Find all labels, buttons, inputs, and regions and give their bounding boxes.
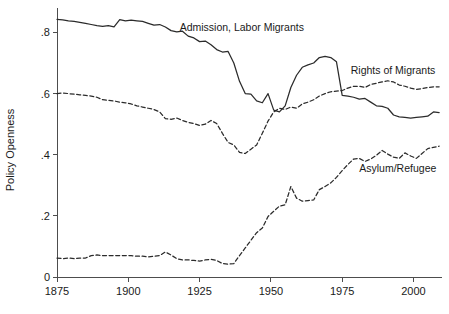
x-tick-label: 1875: [45, 285, 69, 297]
y-axis-title: Policy Openness: [4, 108, 16, 191]
chart-svg: 0.2.4.6.8 Policy Openness 18751900192519…: [0, 0, 449, 314]
x-tick-label: 1925: [187, 285, 211, 297]
x-tick-label: 1900: [116, 285, 140, 297]
series-label-asylum-refugee: Asylum/Refugee: [359, 162, 436, 174]
y-tick-label: .6: [41, 88, 50, 100]
policy-openness-chart: 0.2.4.6.8 Policy Openness 18751900192519…: [0, 0, 449, 314]
y-axis: 0.2.4.6.8 Policy Openness: [4, 8, 57, 283]
x-tick-group: 187519001925195019752000: [45, 277, 426, 297]
y-tick-label: .4: [41, 149, 50, 161]
x-tick-label: 2000: [401, 285, 425, 297]
y-tick-label: 0: [44, 271, 50, 283]
series-line-rights-of-migrants: [57, 81, 439, 154]
series-label-group: Admission, Labor MigrantsRights of Migra…: [180, 21, 437, 174]
y-tick-group: 0.2.4.6.8: [41, 26, 57, 283]
x-tick-label: 1975: [330, 285, 354, 297]
series-label-admission-labor-migrants: Admission, Labor Migrants: [180, 21, 304, 33]
y-tick-label: .2: [41, 210, 50, 222]
series-group: [57, 19, 439, 264]
x-axis: 187519001925195019752000: [45, 277, 442, 297]
y-tick-label: .8: [41, 26, 50, 38]
x-tick-label: 1950: [259, 285, 283, 297]
series-label-rights-of-migrants: Rights of Migrants: [351, 64, 436, 76]
